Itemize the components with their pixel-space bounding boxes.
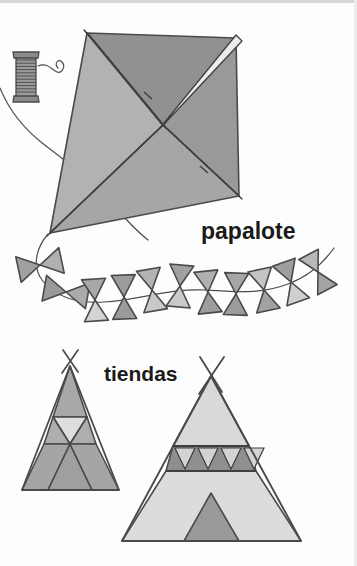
spool-bottom-cap [13,96,39,102]
spool-top-cap [13,52,39,58]
illustration-canvas: papalote [0,0,357,566]
string-spool [13,52,39,102]
illustration-page: papalote [0,0,357,566]
label-tiendas: tiendas [104,362,178,385]
page-top-border [0,0,357,3]
label-papalote: papalote [201,218,296,244]
